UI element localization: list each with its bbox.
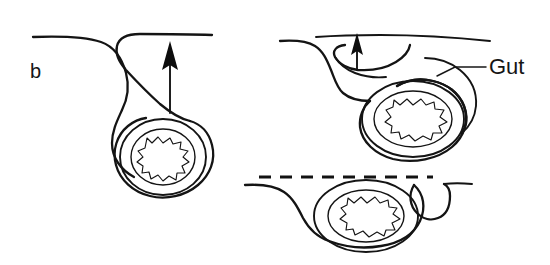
left-outer-right-sheet — [116, 34, 212, 121]
gut-label: Gut — [489, 54, 524, 79]
panel-left-group: b — [30, 34, 213, 198]
figure-canvas: b — [0, 0, 550, 265]
panel-label-b: b — [30, 60, 41, 82]
bottom-right-hook — [410, 184, 450, 219]
left-arrow-up — [162, 41, 178, 113]
panel-bottom-group — [245, 177, 472, 252]
bottom-lumen — [340, 197, 400, 237]
right-lumen — [385, 99, 447, 141]
right-pocket-upper-lip — [334, 45, 410, 70]
right-arrow-up — [351, 33, 363, 69]
right-coil-upper-arc — [397, 80, 466, 133]
left-ring-middle — [120, 119, 206, 195]
left-lumen — [137, 137, 189, 181]
panel-right-group: Gut — [280, 33, 524, 161]
bottom-outer-right-sheet — [444, 183, 472, 184]
right-surface-line — [316, 35, 490, 41]
right-ring-middle — [362, 81, 464, 157]
bottom-ring-middle — [314, 180, 418, 252]
left-ring-inner — [131, 129, 195, 185]
right-pocket-floor — [335, 57, 386, 77]
bottom-outer-left-sheet — [245, 185, 329, 241]
